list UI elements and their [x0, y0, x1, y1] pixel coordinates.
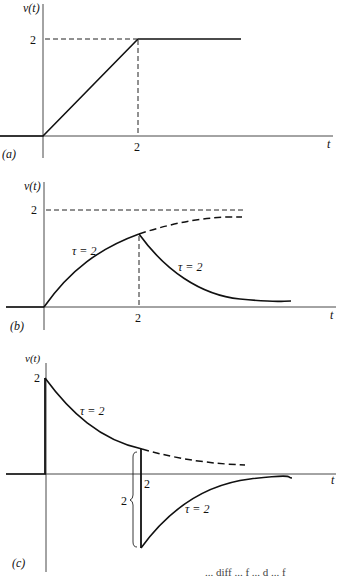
panel-c: 2 2 t τ = 2 τ = 2 2 (c) v(t): [6, 352, 336, 572]
tau-label-fall: τ = 2: [178, 260, 202, 274]
y-axis-label: v(t): [25, 352, 41, 365]
x-axis-label: t: [331, 473, 335, 487]
panel-a: v(t) 2 2 t (a): [0, 1, 333, 161]
x-axis-label: t: [330, 308, 334, 322]
panel-label: (c): [12, 556, 25, 570]
y-tick-2: 2: [31, 203, 37, 217]
tau-label-first: τ = 2: [80, 404, 104, 418]
panel-b: v(t) 2 2 t τ = 2 τ = 2 (b): [6, 179, 336, 333]
decay-curve: [139, 234, 291, 302]
y-tick-2: 2: [34, 371, 40, 385]
brace: [130, 452, 137, 547]
y-axis-label: v(t): [23, 1, 40, 15]
truncated-caption: ... diff ... f ... d ... f: [205, 566, 286, 577]
tau-label-second: τ = 2: [185, 502, 209, 516]
tau-label-rise: τ = 2: [72, 244, 96, 258]
panel-label: (a): [2, 147, 16, 161]
y-axis-label: v(t): [24, 179, 41, 193]
x-tick-2: 2: [135, 311, 141, 325]
x-tick-2: 2: [144, 477, 150, 491]
jump-label: 2: [121, 494, 127, 508]
ramp-curve: [0, 39, 241, 136]
second-decay-curve: [141, 476, 292, 548]
panel-label: (b): [10, 319, 24, 333]
continued-rise-dashed: [139, 217, 242, 234]
x-axis-label: t: [327, 137, 331, 151]
continued-decay-dashed: [142, 449, 245, 465]
figure: v(t) 2 2 t (a) v(t) 2 2 t τ = 2 τ = 2 (b…: [0, 0, 340, 577]
y-tick-2: 2: [30, 33, 36, 47]
x-tick-2: 2: [134, 140, 140, 154]
